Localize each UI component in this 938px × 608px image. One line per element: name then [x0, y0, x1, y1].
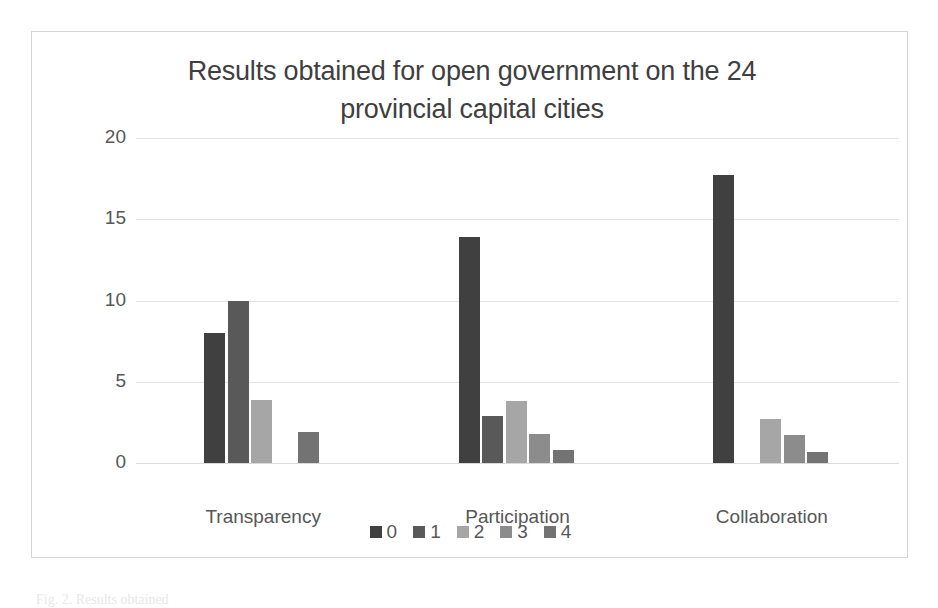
legend-item[interactable]: 0	[370, 522, 398, 541]
bar	[760, 419, 781, 463]
legend-item[interactable]: 3	[500, 522, 528, 541]
plot-area	[136, 138, 899, 463]
chart-title: Results obtained for open government on …	[102, 52, 842, 128]
bar	[228, 301, 249, 464]
bar	[713, 175, 734, 463]
legend-item[interactable]: 1	[413, 522, 441, 541]
legend-label: 1	[430, 522, 441, 541]
bar	[298, 432, 319, 463]
bar	[529, 434, 550, 463]
chart-title-line-2: provincial capital cities	[102, 90, 842, 128]
gridline	[136, 219, 899, 220]
bar	[506, 401, 527, 463]
legend-swatch-icon	[500, 526, 512, 538]
y-tick-label: 10	[80, 289, 126, 311]
legend-item[interactable]: 4	[544, 522, 572, 541]
figure-caption: Fig. 2. Results obtained	[36, 592, 169, 608]
page-canvas: Results obtained for open government on …	[0, 0, 938, 608]
chart-legend: 01234	[32, 522, 909, 541]
gridline	[136, 301, 899, 302]
legend-label: 0	[387, 522, 398, 541]
legend-item[interactable]: 2	[457, 522, 485, 541]
bar	[807, 452, 828, 463]
legend-swatch-icon	[370, 526, 382, 538]
legend-label: 2	[474, 522, 485, 541]
legend-swatch-icon	[544, 526, 556, 538]
bar	[482, 416, 503, 463]
bar	[204, 333, 225, 463]
y-tick-label: 15	[80, 207, 126, 229]
legend-swatch-icon	[413, 526, 425, 538]
legend-swatch-icon	[457, 526, 469, 538]
bar	[784, 435, 805, 463]
chart-title-line-1: Results obtained for open government on …	[102, 52, 842, 90]
bar	[251, 400, 272, 463]
y-tick-label: 5	[80, 370, 126, 392]
legend-label: 3	[517, 522, 528, 541]
bar	[459, 237, 480, 463]
gridline	[136, 138, 899, 139]
y-tick-label: 0	[80, 451, 126, 473]
legend-label: 4	[561, 522, 572, 541]
chart-frame: Results obtained for open government on …	[31, 31, 908, 558]
y-axis-tick-labels: 05101520	[74, 138, 126, 463]
bar	[553, 450, 574, 463]
gridline	[136, 382, 899, 383]
axis-baseline	[136, 463, 899, 464]
y-tick-label: 20	[80, 126, 126, 148]
